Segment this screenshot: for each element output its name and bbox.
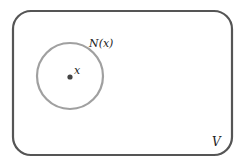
set-label: V — [212, 135, 222, 149]
set-v-boundary — [13, 11, 232, 155]
point-x — [67, 74, 72, 79]
point-label: x — [74, 64, 81, 77]
diagram-canvas: x N(x) V — [0, 0, 242, 163]
neighborhood-label: N(x) — [88, 37, 113, 50]
